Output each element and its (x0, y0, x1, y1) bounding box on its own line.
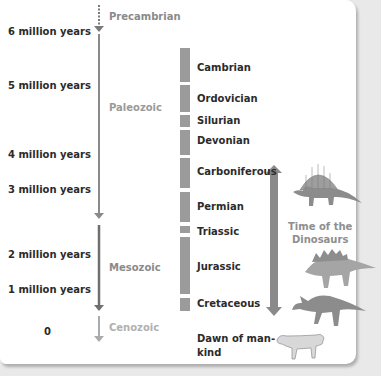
dimetrodon-icon (293, 164, 362, 206)
sabertooth-cat-icon (277, 334, 324, 359)
parasaurolophus-icon (292, 296, 366, 326)
stegosaurus-icon (305, 249, 376, 288)
timeline-card: 6 million years 5 million years 4 millio… (0, 0, 356, 364)
dinosaur-illustrations (0, 0, 381, 376)
